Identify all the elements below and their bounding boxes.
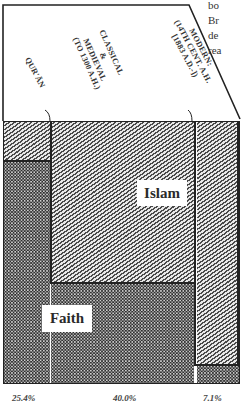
- bottom-value-modern: 7.1%: [203, 393, 222, 403]
- text-line: de: [208, 28, 218, 43]
- column-quran-faith: [4, 161, 50, 384]
- bottom-value-classical: 40.0%: [113, 393, 136, 403]
- chart-body: [3, 121, 240, 384]
- label-faith: Faith: [42, 305, 92, 332]
- column-quran-islam: [4, 122, 50, 161]
- divider-line: [50, 282, 196, 284]
- text-line: bo: [208, 0, 219, 13]
- divider-line: [237, 122, 239, 365]
- bottom-value-quran: 25.4%: [12, 393, 35, 403]
- column-modern-faith: [197, 365, 239, 384]
- divider-line: [50, 122, 52, 283]
- column-modern-islam: [197, 122, 239, 365]
- divider-line: [194, 122, 196, 365]
- divider-line: [4, 160, 51, 162]
- divider-line: [194, 364, 239, 366]
- text-line: Br: [208, 13, 219, 28]
- column-classical-faith: [51, 283, 194, 384]
- label-islam: Islam: [137, 180, 187, 206]
